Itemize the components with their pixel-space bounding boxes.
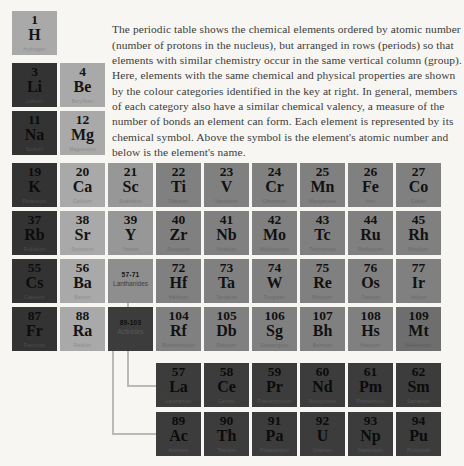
element-cell-co[interactable]: 27CoCobalt <box>396 163 441 207</box>
element-cell-mo[interactable]: 42MoMolybdenum <box>252 211 297 255</box>
element-cell-mn[interactable]: 25MnManganese <box>300 163 345 207</box>
element-cell-pu[interactable]: 94PuPlutonium <box>396 412 441 456</box>
element-atomic-number: 77 <box>396 261 441 275</box>
element-cell-rf[interactable]: 104RfRutherfordium <box>156 307 201 351</box>
element-cell-pr[interactable]: 59PrPraseodymium <box>252 363 297 407</box>
element-cell-u[interactable]: 92UUranium <box>300 412 345 456</box>
element-cell-li[interactable]: 3LiLithium <box>12 63 57 107</box>
element-symbol: Ta <box>204 274 249 291</box>
element-symbol: Np <box>348 427 393 444</box>
element-cell-sc[interactable]: 21ScScandium <box>108 163 153 207</box>
element-cell-rh[interactable]: 45RhRhodium <box>396 211 441 255</box>
element-cell-actinides-placeholder[interactable]: 89-103 Actinides <box>108 307 153 351</box>
element-name: Rubidium <box>12 246 57 252</box>
element-cell-hf[interactable]: 72HfHafnium <box>156 259 201 303</box>
element-cell-cs[interactable]: 55CsCaesium <box>12 259 57 303</box>
element-cell-v[interactable]: 23VVanadium <box>204 163 249 207</box>
element-cell-nd[interactable]: 60NdNeodymium <box>300 363 345 407</box>
element-symbol: Zr <box>156 226 201 243</box>
element-atomic-number: 57 <box>156 365 201 379</box>
actinide-series-label: Actinides <box>108 328 153 336</box>
element-cell-fr[interactable]: 87FrFrancium <box>12 307 57 351</box>
element-cell-ir[interactable]: 77IrIridium <box>396 259 441 303</box>
element-atomic-number: 43 <box>300 213 345 227</box>
element-cell-np[interactable]: 93NpNeptunium <box>348 412 393 456</box>
element-cell-ru[interactable]: 44RuRuthenium <box>348 211 393 255</box>
element-atomic-number: 76 <box>348 261 393 275</box>
element-cell-mg[interactable]: 12MgMagnesium <box>60 111 105 155</box>
element-cell-fe[interactable]: 26FeIron <box>348 163 393 207</box>
element-cell-mt[interactable]: 109MtMeitnerium <box>396 307 441 351</box>
element-symbol: Nd <box>300 378 345 395</box>
element-symbol: Rb <box>12 226 57 243</box>
element-symbol: Pm <box>348 378 393 395</box>
element-symbol: Cs <box>12 274 57 291</box>
element-name: Actinium <box>156 447 201 453</box>
lanthanide-series-label: Lanthanides <box>108 280 153 288</box>
element-cell-w[interactable]: 74WTungsten <box>252 259 297 303</box>
element-cell-ra[interactable]: 88RaRadium <box>60 307 105 351</box>
element-cell-ca[interactable]: 20CaCalcium <box>60 163 105 207</box>
element-cell-os[interactable]: 76OsOsmium <box>348 259 393 303</box>
element-atomic-number: 11 <box>12 113 57 127</box>
element-cell-sm[interactable]: 62SmSamarium <box>396 363 441 407</box>
element-atomic-number: 56 <box>60 261 105 275</box>
element-atomic-number: 60 <box>300 365 345 379</box>
element-name: Protactinium <box>252 447 297 453</box>
element-cell-na[interactable]: 11NaSodium <box>12 111 57 155</box>
element-symbol: Pu <box>396 427 441 444</box>
element-atomic-number: 55 <box>12 261 57 275</box>
element-cell-ac[interactable]: 89AcActinium <box>156 412 201 456</box>
element-name: Tungsten <box>252 294 297 300</box>
element-cell-ti[interactable]: 22TiTitanium <box>156 163 201 207</box>
element-atomic-number: 37 <box>12 213 57 227</box>
element-symbol: Hf <box>156 274 201 291</box>
element-name: Scandium <box>108 198 153 204</box>
element-name: Lithium <box>12 98 57 104</box>
element-cell-ba[interactable]: 56BaBarium <box>60 259 105 303</box>
element-cell-tc[interactable]: 43TcTechnetium <box>300 211 345 255</box>
element-atomic-number: 24 <box>252 165 297 179</box>
element-name: Hafnium <box>156 294 201 300</box>
element-name: Dubnium <box>204 342 249 348</box>
element-cell-lanthanides-placeholder[interactable]: 57-71 Lanthanides <box>108 259 153 303</box>
element-cell-pa[interactable]: 91PaProtactinium <box>252 412 297 456</box>
element-cell-sg[interactable]: 106SgSeaborgium <box>252 307 297 351</box>
element-cell-y[interactable]: 39YYttrium <box>108 211 153 255</box>
element-atomic-number: 27 <box>396 165 441 179</box>
element-cell-sr[interactable]: 38SrStrontium <box>60 211 105 255</box>
element-cell-ta[interactable]: 73TaTantalum <box>204 259 249 303</box>
element-cell-db[interactable]: 105DbDubnium <box>204 307 249 351</box>
element-cell-la[interactable]: 57LaLanthanum <box>156 363 201 407</box>
element-symbol: Bh <box>300 322 345 339</box>
actinide-range-label: 89-103 <box>108 319 153 327</box>
element-cell-be[interactable]: 4BeBeryllium <box>60 63 105 107</box>
element-atomic-number: 109 <box>396 309 441 323</box>
element-symbol: Rh <box>396 226 441 243</box>
element-name: Yttrium <box>108 246 153 252</box>
element-symbol: H <box>12 26 57 43</box>
element-symbol: Os <box>348 274 393 291</box>
element-name: Calcium <box>60 198 105 204</box>
element-name: Potassium <box>12 198 57 204</box>
element-atomic-number: 41 <box>204 213 249 227</box>
element-cell-ce[interactable]: 58CeCerium <box>204 363 249 407</box>
element-cell-re[interactable]: 75ReRhenium <box>300 259 345 303</box>
element-cell-zr[interactable]: 40ZrZirconium <box>156 211 201 255</box>
element-cell-rb[interactable]: 37RbRubidium <box>12 211 57 255</box>
element-cell-bh[interactable]: 107BhBohrium <box>300 307 345 351</box>
element-cell-th[interactable]: 90ThThorium <box>204 412 249 456</box>
element-cell-hs[interactable]: 108HsHassium <box>348 307 393 351</box>
element-atomic-number: 45 <box>396 213 441 227</box>
element-symbol: Ti <box>156 178 201 195</box>
element-symbol: Fr <box>12 322 57 339</box>
element-symbol: Cr <box>252 178 297 195</box>
element-cell-pm[interactable]: 61PmPromethium <box>348 363 393 407</box>
actinide-connector-vertical <box>112 351 114 435</box>
element-symbol: Ba <box>60 274 105 291</box>
element-cell-k[interactable]: 19KPotassium <box>12 163 57 207</box>
element-cell-cr[interactable]: 24CrChromium <box>252 163 297 207</box>
element-atomic-number: 94 <box>396 414 441 428</box>
element-cell-nb[interactable]: 41NbNiobium <box>204 211 249 255</box>
element-cell-h[interactable]: 1HHydrogen <box>12 11 57 55</box>
